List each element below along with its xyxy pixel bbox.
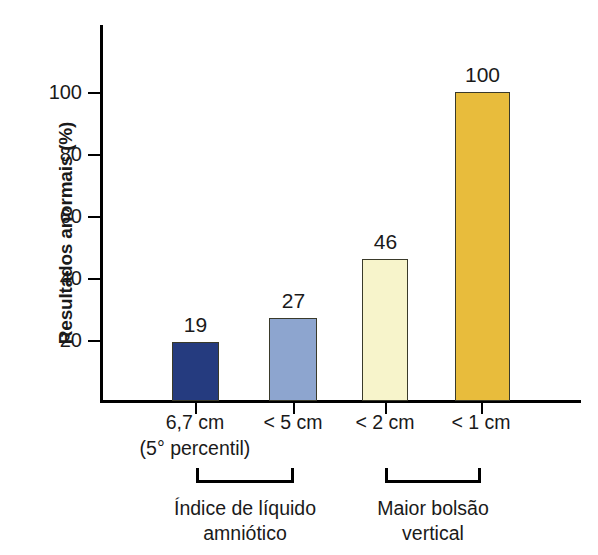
y-tick-mark bbox=[88, 278, 101, 280]
bar-value-label: 46 bbox=[337, 230, 434, 254]
bar-value-label: 27 bbox=[245, 289, 342, 313]
y-tick-mark bbox=[88, 216, 101, 218]
bar-lt-2-cm bbox=[362, 259, 408, 401]
group-bracket-max-vertical-pocket bbox=[385, 468, 481, 483]
y-tick-label: 60 bbox=[38, 205, 82, 228]
group-label-max-vertical-pocket: Maior bolsão vertical bbox=[343, 496, 523, 546]
group-label-line-2: vertical bbox=[343, 521, 523, 546]
group-label-line-1: Maior bolsão bbox=[343, 496, 523, 521]
bar-chart-figure: Resultados anormais (%) 20 40 60 80 100 … bbox=[0, 0, 598, 555]
bar-lt-5-cm bbox=[269, 318, 317, 401]
y-tick-mark bbox=[88, 92, 101, 94]
y-tick-label: 80 bbox=[38, 143, 82, 166]
bar-value-label: 100 bbox=[434, 63, 531, 87]
bar-lt-1-cm bbox=[455, 92, 510, 401]
group-label-line-1: Índice de líquido bbox=[135, 496, 355, 521]
y-tick-mark bbox=[88, 154, 101, 156]
x-sublabel-percentile: (5° percentil) bbox=[113, 437, 277, 460]
bar-value-label: 19 bbox=[147, 313, 244, 337]
group-bracket-amniotic-fluid-index bbox=[196, 468, 294, 483]
y-tick-mark bbox=[88, 340, 101, 342]
group-label-amniotic-fluid-index: Índice de líquido amniótico bbox=[135, 496, 355, 546]
x-label-lt-1-cm: < 1 cm bbox=[417, 411, 545, 434]
group-label-line-2: amniótico bbox=[135, 521, 355, 546]
bar-6-7-cm bbox=[172, 342, 219, 401]
y-tick-label: 20 bbox=[38, 329, 82, 352]
y-tick-label: 40 bbox=[38, 267, 82, 290]
y-tick-label: 100 bbox=[38, 81, 82, 104]
y-axis-line bbox=[100, 25, 103, 403]
